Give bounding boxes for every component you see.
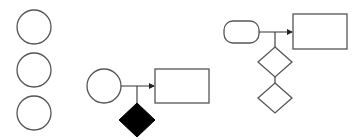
circle-rectangle-filled-diamond-group — [87, 69, 209, 137]
diamond-shape — [258, 83, 292, 113]
circle-shape — [87, 69, 121, 103]
circle-shape — [17, 53, 51, 87]
standalone-circles-group — [17, 10, 51, 130]
rounded-rect-shape — [224, 21, 259, 43]
circle-shape — [17, 10, 51, 44]
circle-shape — [17, 96, 51, 130]
rectangle-shape — [293, 14, 347, 49]
pill-rectangle-diamonds-group — [224, 14, 347, 113]
diagram-canvas — [0, 0, 361, 140]
rectangle-shape — [155, 69, 209, 103]
diamond-shape — [258, 47, 292, 77]
filled-diamond-shape — [119, 103, 155, 137]
diagram-svg — [0, 0, 361, 140]
